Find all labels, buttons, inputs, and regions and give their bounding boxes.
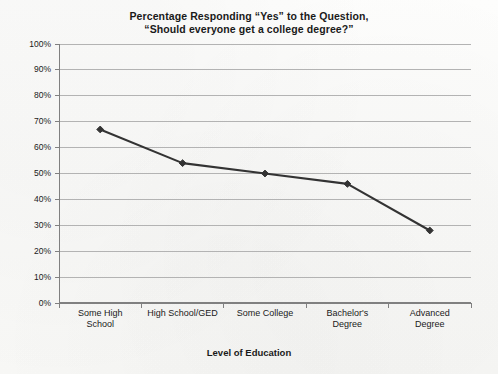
gridlines [59,44,471,277]
y-axis-tick-label: 100% [5,40,51,49]
x-axis-tick-label: Some High School [59,308,141,330]
line-chart: Percentage Responding “Yes” to the Quest… [0,0,498,374]
y-axis-tick-label: 90% [5,65,51,74]
y-axis-tick-label: 0% [5,299,51,308]
axis-ticks [55,44,471,308]
y-axis-tick-label: 80% [5,91,51,100]
data-point-marker [97,126,104,133]
x-axis-tick-label: Some College [224,308,306,319]
y-axis-tick-label: 70% [5,117,51,126]
data-series [97,126,433,234]
y-axis-tick-label: 20% [5,247,51,256]
y-axis-tick-label: 10% [5,273,51,282]
y-axis-tick-label: 30% [5,221,51,230]
x-axis-tick-label: Bachelor's Degree [306,308,388,330]
data-point-marker [179,160,186,167]
data-point-marker [262,170,269,177]
x-axis-tick-label: High School/GED [141,308,223,319]
series-line [100,129,430,230]
y-axis-tick-label: 50% [5,169,51,178]
x-axis-tick-label: Advanced Degree [389,308,471,330]
y-axis-tick-label: 60% [5,143,51,152]
x-axis-title: Level of Education [0,347,498,358]
y-axis-tick-label: 40% [5,195,51,204]
